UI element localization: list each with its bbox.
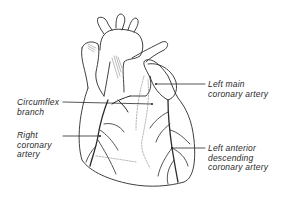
lad-vessel	[168, 100, 178, 182]
pulmonary-trunk	[132, 42, 168, 62]
label-right-coronary-artery: Right coronary artery	[17, 131, 52, 160]
label-left-anterior-descending: Left anterior descending coronary artery	[208, 144, 268, 173]
right-coronary-artery-vessel	[90, 100, 108, 166]
circumflex-vessel	[112, 96, 130, 112]
aortic-branch-1	[97, 17, 112, 34]
heart-diagram: Left main coronary artery Circumflex bra…	[0, 0, 284, 201]
left-atrial-appendage	[148, 64, 177, 100]
label-left-main-coronary-artery: Left main coronary artery	[208, 80, 268, 99]
label-circumflex-branch: Circumflex branch	[17, 98, 59, 117]
aortic-branch-2	[116, 14, 125, 30]
superior-vena-cava	[82, 42, 104, 96]
aortic-branch-3	[128, 18, 138, 32]
